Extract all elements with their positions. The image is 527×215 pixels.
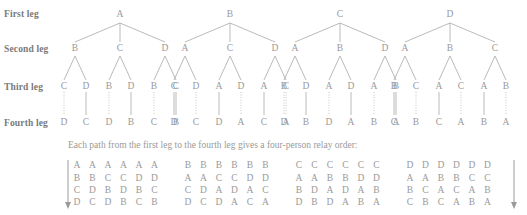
relay-tree-figure: First leg Second leg Third leg Fourth le… bbox=[0, 0, 527, 215]
order-direction-arrows bbox=[0, 0, 527, 215]
